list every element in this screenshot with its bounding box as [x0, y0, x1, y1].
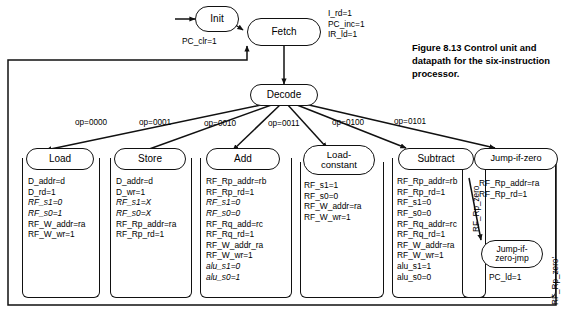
subtract-action-1: RF_Rp_rd=1 [397, 187, 457, 198]
subtract-action-2: RF_s1=0 [397, 197, 457, 208]
state-add[interactable]: Add [206, 148, 280, 170]
fetch-action-1: PC_inc=1 [328, 19, 365, 30]
state-store[interactable]: Store [114, 148, 186, 170]
subtract-action-5: RF_Rq_rd=1 [397, 229, 457, 240]
store-action-2: RF_s1=X [116, 197, 176, 208]
edge-label-op-0101: op=0101 [394, 117, 426, 126]
add-action-3: RF_s0=0 [206, 208, 266, 219]
state-add-actions: RF_Rp_addr=rb RF_Rp_rd=1 RF_s1=0 RF_s0=0… [206, 176, 266, 282]
loadconstant-action-2: RF_W_addr=ra [304, 201, 361, 212]
loadconstant-action-3: RF_W_wr=1 [304, 212, 361, 223]
fetch-action-2: IR_ld=1 [328, 29, 365, 40]
state-load-actions: D_addr=d D_rd=1 RF_s1=0 RF_s0=1 RF_W_add… [28, 176, 85, 240]
load-action-4: RF_W_addr=ra [28, 219, 85, 230]
loadconstant-action-1: RF_s0=0 [304, 191, 361, 202]
edge-label-op-0000: op=0000 [75, 118, 107, 127]
state-jump-if-zero-jmp-actions: PC_ld=1 [489, 272, 521, 283]
store-action-0: D_addr=d [116, 176, 176, 187]
state-decode[interactable]: Decode [250, 84, 318, 106]
subtract-action-4: RF_Rq_addr=rc [397, 219, 457, 230]
add-action-8: alu_s1=0 [206, 261, 266, 272]
state-jump-if-zero-jmp[interactable]: Jump-if- zero-jmp [481, 240, 543, 268]
state-init-actions: PC_clr=1 [182, 36, 217, 47]
state-load-constant[interactable]: Load- constant [303, 145, 375, 175]
jumpifzero-action-1: RF_Rp_rd=1 [479, 189, 539, 200]
add-action-6: RF_W_addr_ra [206, 240, 266, 251]
store-action-1: D_wr=1 [116, 187, 176, 198]
state-fetch-actions: I_rd=1 PC_inc=1 IR_ld=1 [328, 8, 365, 40]
edge-label-op-0001: op=0001 [139, 118, 171, 127]
load-action-2: RF_s1=0 [28, 197, 85, 208]
jumpifzerojmp-action-0: PC_ld=1 [489, 272, 521, 283]
state-jump-if-zero[interactable]: Jump-if-zero [474, 148, 558, 170]
subtract-action-8: alu_s1=1 [397, 261, 457, 272]
state-jump-if-zero-actions: RF_Rp_addr=ra RF_Rp_rd=1 [479, 178, 539, 199]
edge-label-rf-rp-zero-not: RF_Rp_zero' [551, 257, 560, 305]
state-store-actions: D_addr=d D_wr=1 RF_s1=X RF_s0=X RF_Rp_ad… [116, 176, 176, 240]
store-action-5: RF_Rp_rd=1 [116, 229, 176, 240]
state-fetch[interactable]: Fetch [247, 18, 321, 46]
loadconstant-action-0: RF_s1=1 [304, 180, 361, 191]
add-action-2: RF_s1=0 [206, 197, 266, 208]
edge-label-rf-rp-zero: RF_Rp_zero [472, 186, 481, 232]
subtract-action-9: alu_s0=0 [397, 272, 457, 283]
add-action-4: RF_Rq_add=rc [206, 219, 266, 230]
load-action-1: D_rd=1 [28, 187, 85, 198]
store-action-3: RF_s0=X [116, 208, 176, 219]
edge-label-op-0100: op=0100 [332, 118, 364, 127]
state-subtract-actions: RF_Rp_addr=rb RF_Rp_rd=1 RF_s1=0 RF_s0=0… [397, 176, 457, 282]
store-action-4: RF_Rp_addr=ra [116, 219, 176, 230]
subtract-action-7: RF_W_wr=1 [397, 250, 457, 261]
load-action-3: RF_s0=1 [28, 208, 85, 219]
add-action-0: RF_Rp_addr=rb [206, 176, 266, 187]
add-action-7: RF_W_wr=1 [206, 250, 266, 261]
jumpifzero-action-0: RF_Rp_addr=ra [479, 178, 539, 189]
add-action-5: RF_Rq_rd=1 [206, 229, 266, 240]
state-load[interactable]: Load [26, 148, 94, 170]
figure-caption: Figure 8.13 Control unit and datapath fo… [412, 42, 562, 80]
state-load-constant-actions: RF_s1=1 RF_s0=0 RF_W_addr=ra RF_W_wr=1 [304, 180, 361, 223]
state-subtract[interactable]: Subtract [398, 148, 474, 170]
fetch-action-0: I_rd=1 [328, 8, 365, 19]
load-action-0: D_addr=d [28, 176, 85, 187]
figure-canvas: Init PC_clr=1 Fetch I_rd=1 PC_inc=1 IR_l… [0, 0, 566, 314]
subtract-action-0: RF_Rp_addr=rb [397, 176, 457, 187]
edge-label-op-0011: op=0011 [268, 119, 300, 128]
edge-label-op-0010: op=0010 [204, 119, 236, 128]
add-action-1: RF_Rp_rd=1 [206, 187, 266, 198]
subtract-action-3: RF_s0=0 [397, 208, 457, 219]
load-action-5: RF_W_wr=1 [28, 229, 85, 240]
state-init[interactable]: Init [195, 6, 239, 32]
subtract-action-6: RF_W_addr=ra [397, 240, 457, 251]
add-action-9: alu_s0=1 [206, 272, 266, 283]
